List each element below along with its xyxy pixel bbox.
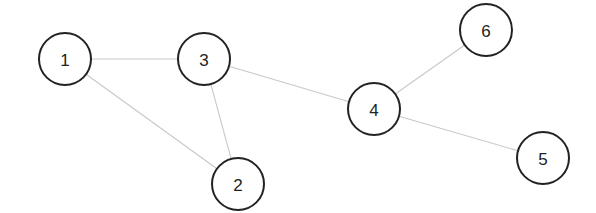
edge-4-5 [399, 116, 518, 151]
node-5: 5 [517, 132, 569, 184]
node-label: 6 [481, 22, 490, 41]
edge-3-2 [211, 84, 231, 159]
edge-4-6 [395, 45, 465, 94]
node-label: 4 [369, 101, 378, 120]
edge-1-2 [86, 74, 217, 169]
node-label: 1 [60, 51, 69, 70]
nodes-layer: 123456 [39, 4, 569, 210]
node-4: 4 [348, 83, 400, 135]
node-6: 6 [460, 4, 512, 56]
node-label: 5 [538, 150, 547, 169]
node-label: 3 [199, 51, 208, 70]
node-1: 1 [39, 33, 91, 85]
node-label: 2 [233, 176, 242, 195]
node-2: 2 [212, 158, 264, 210]
edges-layer [86, 45, 518, 169]
node-3: 3 [178, 33, 230, 85]
graph-diagram: 123456 [0, 0, 596, 213]
edge-3-4 [229, 66, 349, 101]
